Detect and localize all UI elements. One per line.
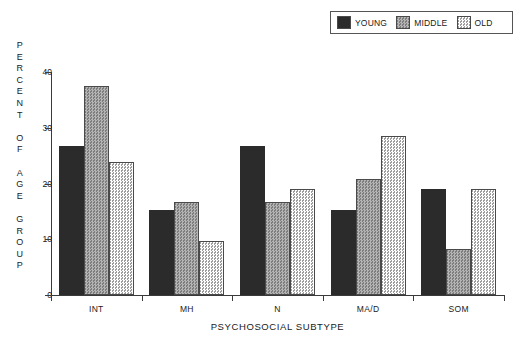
bar-young-int — [59, 146, 84, 295]
x-axis-tick-mark — [413, 295, 414, 301]
bar-old-int — [109, 162, 134, 295]
bar-old-mh — [199, 241, 224, 295]
x-axis-category-label: MH — [180, 304, 194, 314]
x-axis-tick-mark — [323, 295, 324, 301]
x-axis-category-label: MA/D — [357, 304, 379, 314]
chart-page: YOUNG MIDDLE OLD PERCENTOFAGEGROUP 01020… — [0, 0, 524, 341]
y-axis-tick-mark — [45, 239, 52, 240]
x-axis-title: PSYCHOSOCIAL SUBTYPE — [51, 321, 504, 332]
y-axis-tick-mark — [45, 184, 52, 185]
x-axis-line — [51, 295, 504, 296]
plot-area: 010203040 INTMHNMA/DSOM — [0, 0, 524, 341]
bar-middle-n — [265, 202, 290, 295]
bar-old-ma-d — [381, 136, 406, 295]
bar-middle-som — [446, 249, 471, 295]
bar-middle-int — [84, 86, 109, 295]
x-axis-tick-mark — [504, 295, 505, 301]
x-axis-category-label: N — [274, 304, 280, 314]
x-axis-tick-mark — [142, 295, 143, 301]
bar-old-som — [471, 189, 496, 295]
x-axis-tick-mark — [51, 295, 52, 301]
bar-middle-mh — [174, 202, 199, 295]
x-axis-category-label: INT — [89, 304, 104, 314]
bar-old-n — [290, 189, 315, 295]
y-axis-tick-mark — [45, 72, 52, 73]
y-axis-tick-mark — [45, 128, 52, 129]
bar-middle-ma-d — [356, 179, 381, 295]
bar-young-n — [240, 146, 265, 295]
bar-young-ma-d — [331, 210, 356, 295]
x-axis-category-label: SOM — [449, 304, 469, 314]
bar-young-mh — [149, 210, 174, 295]
x-axis-tick-mark — [232, 295, 233, 301]
bar-young-som — [421, 189, 446, 295]
